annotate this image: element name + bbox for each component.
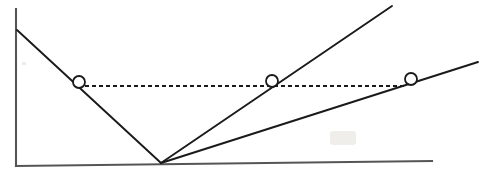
marker-2-circle [266,75,278,87]
marker-1-circle [73,76,85,88]
figure-background [0,0,492,178]
figure-root [0,0,492,178]
figure-canvas [0,0,492,178]
marker-3-circle [405,73,417,85]
paper-smudge [330,131,356,145]
paper-speck-left [22,62,26,65]
